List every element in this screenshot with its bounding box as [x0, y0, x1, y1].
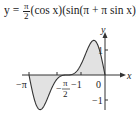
label-y-neg-one: −1	[92, 95, 103, 106]
y-axis-label: y	[100, 24, 106, 35]
x-axis-arrow-icon	[120, 73, 126, 78]
label-y-one: 1	[98, 45, 103, 56]
x-axis-label: x	[126, 70, 132, 81]
label-neg-pi: −π	[16, 79, 27, 90]
label-neg-pi-over-2-minus: −	[56, 83, 62, 94]
label-neg-pi-over-2-num: π	[63, 78, 68, 88]
label-neg-pi-over-2-den: 2	[63, 89, 68, 99]
label-neg-one-x: −1	[71, 79, 82, 90]
label-zero: 0	[96, 79, 101, 90]
plot-area: y x −π − π 2 −1 0 1 −1	[0, 0, 136, 123]
